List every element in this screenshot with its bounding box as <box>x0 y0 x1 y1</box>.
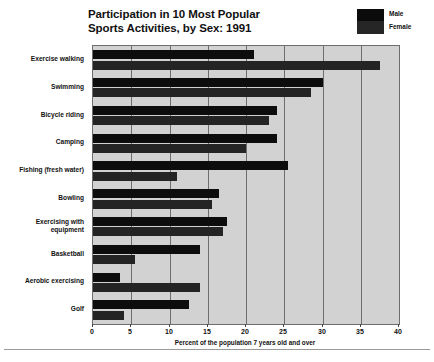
legend-item-male: Male <box>389 10 403 17</box>
xtick-mark-35 <box>360 324 361 327</box>
category-axis-labels: Exercise walkingSwimmingBicycle ridingCa… <box>0 45 88 323</box>
plot-area <box>92 45 400 325</box>
bar-female-basketball <box>93 255 135 264</box>
bar-male-exercise-walking <box>93 50 254 59</box>
category-label-basketball: Basketball <box>51 250 84 258</box>
xtick-label-30: 30 <box>312 328 332 335</box>
figure-bottom-rule <box>4 349 430 350</box>
legend-swatch-icon <box>357 9 384 34</box>
xtick-label-25: 25 <box>273 328 293 335</box>
value-axis: 0510152025303540 <box>92 324 398 338</box>
bar-female-exercise-walking <box>93 61 380 70</box>
xtick-mark-40 <box>398 324 399 327</box>
xtick-mark-30 <box>322 324 323 327</box>
chart-figure: Participation in 10 Most Popular Sports … <box>0 0 434 362</box>
category-label-swimming: Swimming <box>51 83 84 91</box>
bar-male-golf <box>93 300 189 309</box>
xtick-mark-5 <box>130 324 131 327</box>
bar-male-basketball <box>93 245 200 254</box>
value-axis-title: Percent of the population 7 years old an… <box>92 339 398 346</box>
category-label-exercising-with-equipment: Exercising with equipment <box>36 218 84 234</box>
bar-male-exercising-with-equipment <box>93 217 227 226</box>
category-label-golf: Golf <box>71 305 84 313</box>
xtick-label-35: 35 <box>350 328 370 335</box>
category-label-camping: Camping <box>56 138 84 146</box>
xtick-mark-15 <box>207 324 208 327</box>
legend-item-female: Female <box>389 23 411 30</box>
xtick-mark-0 <box>92 324 93 327</box>
category-label-fishing-fresh-water: Fishing (fresh water) <box>19 166 84 174</box>
bar-male-bowling <box>93 189 219 198</box>
xtick-label-20: 20 <box>235 328 255 335</box>
bar-series-container <box>93 46 399 324</box>
xtick-label-40: 40 <box>388 328 408 335</box>
category-label-exercise-walking: Exercise walking <box>31 55 84 63</box>
xtick-label-15: 15 <box>197 328 217 335</box>
legend-swatch-female-half <box>357 21 384 34</box>
xtick-mark-25 <box>283 324 284 327</box>
xtick-label-5: 5 <box>120 328 140 335</box>
gridline-40 <box>399 46 400 324</box>
chart-title-line-1: Participation in 10 Most Popular <box>88 8 318 22</box>
xtick-label-0: 0 <box>82 328 102 335</box>
bar-male-camping <box>93 134 277 143</box>
bar-female-swimming <box>93 88 311 97</box>
bar-female-fishing-fresh-water <box>93 172 177 181</box>
xtick-mark-10 <box>169 324 170 327</box>
bar-female-golf <box>93 311 124 320</box>
category-label-bowling: Bowling <box>58 194 84 202</box>
category-label-bicycle-riding: Bicycle riding <box>41 111 84 119</box>
bar-female-exercising-with-equipment <box>93 227 223 236</box>
bar-female-bicycle-riding <box>93 116 269 125</box>
bar-male-aerobic-exercising <box>93 273 120 282</box>
xtick-mark-20 <box>245 324 246 327</box>
xtick-label-10: 10 <box>159 328 179 335</box>
bar-female-camping <box>93 144 246 153</box>
bar-female-bowling <box>93 200 212 209</box>
bar-female-aerobic-exercising <box>93 283 200 292</box>
bar-male-fishing-fresh-water <box>93 161 288 170</box>
chart-title: Participation in 10 Most Popular Sports … <box>88 8 318 35</box>
category-label-aerobic-exercising: Aerobic exercising <box>25 277 84 285</box>
bar-male-swimming <box>93 78 323 87</box>
chart-title-line-2: Sports Activities, by Sex: 1991 <box>88 22 318 36</box>
bar-male-bicycle-riding <box>93 106 277 115</box>
legend-swatch-male-half <box>357 9 384 21</box>
chart-legend: Male Female <box>357 9 429 35</box>
